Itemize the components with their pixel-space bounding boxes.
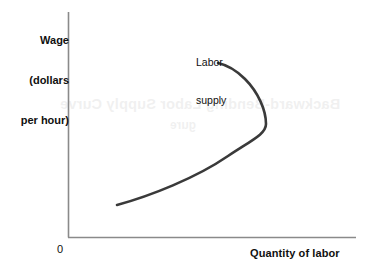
curve-annotation-line-1: Labor	[196, 56, 226, 69]
curve-annotation-line-2: supply	[196, 94, 226, 107]
labor-supply-curve	[117, 63, 266, 205]
y-axis-label-line-2: (dollars	[21, 74, 69, 87]
y-axis-label: Wage (dollars per hour)	[21, 8, 69, 153]
curve-annotation: Labor supply	[196, 31, 226, 131]
y-axis-label-line-1: Wage	[21, 34, 69, 47]
labor-supply-figure: Backward-Bending Labor Supply Curve gure…	[0, 0, 379, 269]
origin-label: 0	[57, 243, 63, 255]
x-axis-label: Quantity of labor	[250, 247, 340, 259]
y-axis-label-line-3: per hour)	[21, 114, 69, 127]
